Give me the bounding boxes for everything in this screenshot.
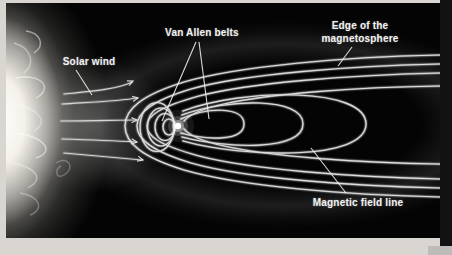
magnetosphere-figure: Solar wind Van Allen belts Edge of the m… <box>6 3 440 238</box>
solar-wind-arrows <box>61 79 144 163</box>
solar-wind-label: Solar wind <box>61 55 117 68</box>
adjacent-dark-strip <box>440 0 452 248</box>
magnetic-field-line-label: Magnetic field line <box>308 196 408 209</box>
edge-label-line2: magnetosphere <box>312 32 408 45</box>
corner-shadow <box>428 246 452 255</box>
page-background: Solar wind Van Allen belts Edge of the m… <box>0 0 452 255</box>
field-line-leader <box>311 148 346 193</box>
earth-icon <box>162 110 194 142</box>
van-allen-belts-label: Van Allen belts <box>163 26 241 39</box>
edge-of-magnetosphere-label: Edge of the magnetosphere <box>312 19 408 45</box>
edge-label-line1: Edge of the <box>312 19 408 32</box>
edge-leader <box>338 47 352 66</box>
